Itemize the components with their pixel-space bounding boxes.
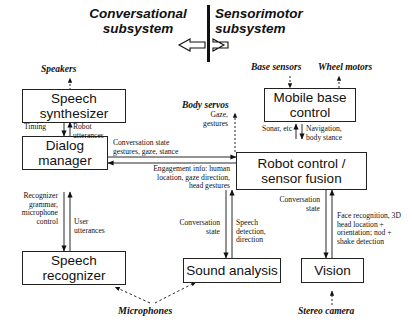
label-robot-utterances-line2: utterances — [73, 132, 104, 141]
external-label-microphones: Microphones — [118, 305, 172, 316]
label-face-recognition: Face recognition, 3D head location + ori… — [337, 212, 413, 247]
label-gaze-gestures: Gaze, gestures — [182, 111, 228, 128]
box-speech-synthesizer-line1: Speech — [40, 91, 108, 106]
header-sensorimotor-line1: Sensorimotor — [215, 6, 345, 21]
label-speech-detection: Speech detection, direction — [236, 219, 266, 245]
box-vision[interactable]: Vision — [301, 258, 364, 283]
edge-microphones — [115, 282, 196, 303]
label-user-utterances-line2: utterances — [74, 227, 105, 236]
header-sensorimotor: Sensorimotor subsystem — [215, 6, 345, 36]
external-label-base-sensors: Base sensors — [251, 62, 301, 72]
external-label-stereo-camera: Stereo camera — [298, 306, 354, 316]
label-engagement-info-line3: head gestures — [113, 182, 230, 191]
label-conversation-state-gestures: Conversation state gestures, gaze, stanc… — [113, 139, 178, 156]
box-mobile-base-control[interactable]: Mobile base control — [264, 88, 356, 122]
header-conversational-line2: subsystem — [78, 21, 198, 36]
box-vision-label: Vision — [314, 263, 351, 278]
label-recognizer-control: Recognizer grammar, microphone control — [2, 192, 58, 227]
box-dialog-manager[interactable]: Dialog manager — [22, 136, 108, 170]
subsystem-divider — [207, 5, 210, 62]
external-label-speakers: Speakers — [41, 64, 76, 74]
diagram-canvas: Conversational subsystem Sensorimotor su… — [0, 0, 413, 331]
label-face-recognition-line4: shake detection — [337, 238, 413, 247]
label-timing: Timing — [24, 123, 46, 132]
box-robot-control-sensor-fusion[interactable]: Robot control / sensor fusion — [236, 152, 367, 190]
header-conversational-line1: Conversational — [78, 6, 198, 21]
label-engagement-info: Engagement info: human location, gaze di… — [113, 165, 230, 191]
label-conversation-state-vision: Conversation state — [262, 196, 320, 213]
box-speech-recognizer-line1: Speech — [42, 253, 105, 268]
box-sound-analysis[interactable]: Sound analysis — [183, 258, 281, 283]
label-conv-state-vision-line2: state — [262, 205, 320, 214]
box-mobile-base-control-line1: Mobile base — [274, 90, 347, 105]
box-robot-control-line1: Robot control / — [258, 156, 346, 171]
label-speech-detection-line3: direction — [236, 236, 266, 245]
label-robot-utterances: Robot utterances — [73, 123, 104, 140]
label-navigation: Navigation, body stance — [306, 125, 342, 142]
label-gaze-gestures-line2: gestures — [182, 120, 228, 129]
box-sound-analysis-label: Sound analysis — [186, 263, 278, 278]
header-sensorimotor-line2: subsystem — [215, 21, 345, 36]
subsystem-arrow-left — [179, 39, 205, 51]
label-recognizer-control-line4: control — [2, 218, 58, 227]
label-navigation-line2: body stance — [306, 134, 342, 143]
box-speech-recognizer-line2: recognizer — [42, 268, 105, 283]
box-speech-recognizer[interactable]: Speech recognizer — [22, 251, 126, 285]
label-conv-state-gestures-line2: gestures, gaze, stance — [113, 148, 178, 157]
box-speech-synthesizer[interactable]: Speech synthesizer — [22, 89, 126, 123]
label-sonar: Sonar, etc — [244, 125, 292, 134]
label-conversation-state-sound: Conversation state — [160, 219, 220, 236]
box-speech-synthesizer-line2: synthesizer — [40, 106, 108, 121]
label-user-utterances: User utterances — [74, 218, 105, 235]
label-conv-state-sound-line2: state — [160, 228, 220, 237]
box-dialog-manager-line2: manager — [38, 153, 91, 168]
external-label-wheel-motors: Wheel motors — [318, 62, 372, 72]
box-robot-control-line2: sensor fusion — [258, 171, 346, 186]
box-mobile-base-control-line2: control — [274, 105, 347, 120]
header-conversational: Conversational subsystem — [78, 6, 198, 36]
subsystem-arrow-right — [213, 39, 228, 51]
external-label-body-servos: Body servos — [182, 100, 229, 110]
